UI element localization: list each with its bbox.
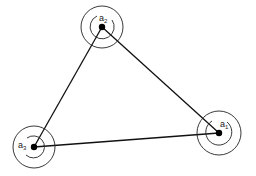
- node-a2: a2: [81, 6, 123, 48]
- edge-a2-a1: [102, 27, 219, 133]
- node-dot: [216, 130, 222, 136]
- node-a1: a1: [197, 111, 241, 155]
- node-dot: [99, 24, 105, 30]
- triangle-graph-diagram: a1 a2 a3: [0, 0, 256, 176]
- node-a3: a3: [13, 126, 55, 168]
- edge-a3-a1: [34, 133, 219, 147]
- node-label: a3: [18, 140, 27, 151]
- node-label: a2: [99, 13, 108, 24]
- node-dot: [31, 144, 37, 150]
- node-label: a1: [220, 119, 229, 130]
